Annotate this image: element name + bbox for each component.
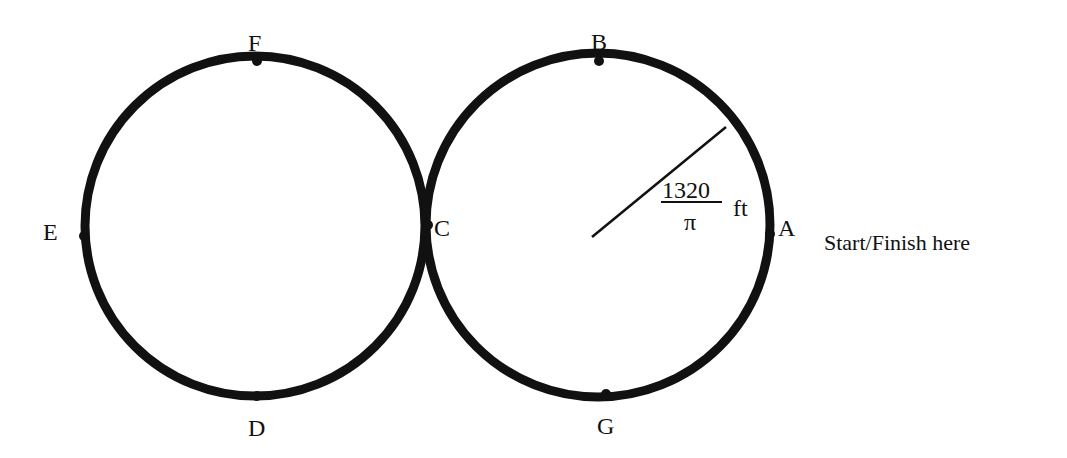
point-label-f: F <box>248 30 261 56</box>
point-label-e: E <box>43 219 58 245</box>
point-e-dot <box>79 231 89 241</box>
point-g-dot <box>601 389 611 399</box>
left-circle <box>85 56 425 396</box>
point-a-dot <box>765 229 775 239</box>
point-label-a: A <box>778 215 796 241</box>
figure-eight-track-diagram: A B C D E F G 1320 π ft Start/Finish her… <box>0 0 1067 458</box>
start-finish-caption: Start/Finish here <box>824 230 970 255</box>
point-c-dot <box>423 220 433 230</box>
point-label-d: D <box>248 415 265 441</box>
right-circle <box>426 53 770 397</box>
radius-numerator: 1320 <box>662 177 710 203</box>
point-f-dot <box>252 56 262 66</box>
point-markers <box>79 56 775 401</box>
point-label-g: G <box>597 413 614 439</box>
point-label-b: B <box>591 29 607 55</box>
point-label-c: C <box>434 215 450 241</box>
point-d-dot <box>252 391 262 401</box>
radius-label: 1320 π ft <box>661 177 748 235</box>
point-b-dot <box>594 56 604 66</box>
radius-denominator: π <box>684 209 696 235</box>
radius-unit: ft <box>733 195 748 221</box>
